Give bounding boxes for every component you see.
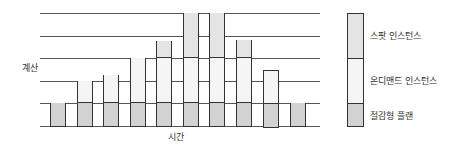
bar-segment (237, 40, 251, 58)
bar-segment (264, 71, 278, 105)
legend-swatch-on-demand (347, 58, 364, 104)
bar-segment (78, 103, 92, 126)
bar (77, 81, 93, 127)
bar (183, 13, 199, 127)
gridline (40, 36, 320, 37)
bar (156, 41, 172, 127)
x-axis-label: 시간 (168, 130, 184, 143)
bar-segment (184, 13, 198, 58)
bar-segment (78, 81, 92, 104)
bar-segment (104, 75, 118, 103)
bar-segment (184, 58, 198, 103)
gridline (40, 13, 320, 14)
bar (130, 58, 146, 127)
gridline (40, 58, 320, 59)
bar (50, 103, 66, 127)
bar-segment (210, 103, 224, 126)
bar-segment (157, 58, 171, 103)
bar-segment (104, 103, 118, 126)
legend-label-savings-plan: 절감형 플랜 (370, 109, 413, 122)
bar-segment (131, 58, 145, 103)
bar (103, 75, 119, 127)
bar-segment (157, 41, 171, 58)
bar (209, 13, 225, 127)
bar-segment (51, 103, 65, 126)
bar-segment (291, 103, 305, 126)
bar-segment (237, 103, 251, 126)
legend-label-spot: 스팟 인스턴스 (370, 29, 421, 42)
legend-swatch-savings-plan (347, 103, 364, 127)
bar-segment (157, 103, 171, 126)
bar (290, 103, 306, 127)
bar (236, 40, 252, 127)
bar-segment (210, 58, 224, 103)
bar-segment (264, 104, 278, 127)
y-axis-label: 계산 (22, 61, 38, 74)
bar-segment (237, 58, 251, 103)
bar-segment (184, 103, 198, 126)
legend-label-on-demand: 온디맨드 인스턴스 (370, 74, 437, 87)
legend-swatch-spot (347, 13, 364, 59)
bar-segment (210, 13, 224, 58)
bar (263, 70, 279, 128)
bar-segment (131, 103, 145, 126)
